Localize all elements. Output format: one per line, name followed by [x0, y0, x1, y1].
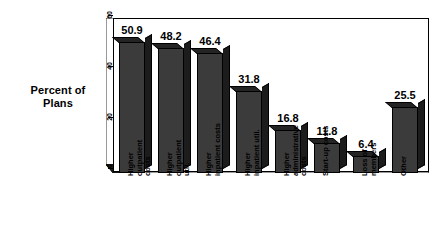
bar-chart: Percent of Plans 0 20 40 60 50.9 — [0, 0, 439, 246]
x-label-0: Higher outpatient costs — [127, 106, 153, 176]
x-label-5: Start-up costs — [322, 106, 331, 176]
bar-top-3 — [229, 86, 262, 92]
bar-side-6 — [379, 148, 386, 169]
bar-value-7: 25.5 — [383, 89, 427, 101]
bar-side-3 — [262, 83, 269, 169]
y-axis-title: Percent of Plans — [12, 84, 104, 110]
y-tick-mark-60 — [108, 15, 113, 16]
bar-value-3: 31.8 — [227, 73, 271, 85]
bar-value-0: 50.9 — [110, 24, 154, 36]
bar-top-2 — [190, 48, 223, 54]
y-tick-20: 20 — [94, 113, 114, 123]
bar-side-7 — [418, 99, 425, 169]
y-tick-0: 0 — [94, 164, 114, 174]
bar-top-1 — [151, 43, 184, 49]
x-label-3: Higher inpatient util. — [244, 106, 261, 176]
x-label-4: Higher administrative costs — [283, 106, 309, 176]
y-tick-40: 40 — [94, 62, 114, 72]
x-label-7: Other — [400, 106, 409, 176]
bar-side-2 — [223, 45, 230, 169]
x-label-2: Higher inpatient costs — [205, 106, 222, 176]
x-axis-labels: Higher outpatient costs Higher outpatien… — [113, 176, 429, 246]
bar-value-1: 48.2 — [149, 30, 193, 42]
x-label-1: Higher outpatient util. — [166, 106, 192, 176]
bar-top-0 — [112, 37, 145, 43]
y-tick-60: 60 — [94, 11, 114, 21]
x-label-6: Loss of members — [361, 106, 378, 176]
bars-layer: 50.9 48.2 46.4 31.8 — [113, 18, 429, 173]
bar-value-2: 46.4 — [188, 35, 232, 47]
y-axis-title-line-1: Percent of — [12, 84, 104, 97]
y-axis-title-line-2: Plans — [12, 97, 104, 110]
